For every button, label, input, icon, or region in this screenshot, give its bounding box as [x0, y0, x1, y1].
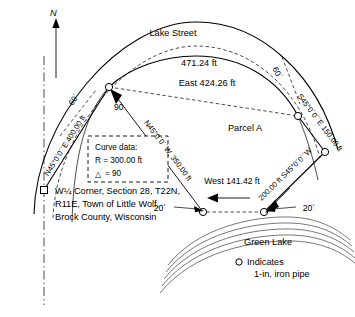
setback-right-label: 20´: [303, 203, 316, 213]
section-corner-monument: [41, 187, 48, 194]
north-arrow: [52, 18, 59, 78]
legend-iron-pipe-icon: [236, 259, 242, 265]
legend-line-2: 1-in. iron pipe: [254, 269, 310, 279]
street-name-label: Lake Street: [150, 28, 197, 38]
chord-label: East 424.26 ft: [179, 78, 236, 88]
corner-note-line-2: R11E, Town of Little Wolf,: [55, 199, 159, 209]
arc-length-label: 471.24 ft: [181, 58, 217, 68]
east-lower-boundary-label: 200.00 ft S45°0´0´´W: [257, 145, 315, 202]
iron-pipe-monument-east: [321, 148, 328, 155]
lake-shoreline-hatching: [160, 217, 355, 293]
legend: Indicates 1-in. iron pipe: [236, 257, 310, 279]
central-angle-label: 90: [114, 102, 124, 112]
iron-pipe-monument-northwest: [105, 83, 112, 90]
curve-data-box: Curve data: R = 300.00 ft △ = 90: [88, 136, 168, 182]
curve-data-delta: = 90: [105, 169, 122, 178]
right-of-way-width-right-label: 60´: [270, 65, 284, 80]
curve-data-radius: R = 300.00 ft: [95, 156, 143, 165]
west-line-label: West 141.42 ft: [204, 176, 260, 186]
legend-line-1: Indicates: [247, 257, 284, 267]
curve-data-heading: Curve data:: [95, 143, 137, 152]
west-direction-arrow: [207, 194, 250, 203]
curve-data-delta-symbol: △: [95, 170, 102, 179]
survey-plat-drawing: N: [0, 0, 355, 317]
corner-note-line-3: Brock County, Wisconsin: [55, 212, 156, 222]
iron-pipe-monument-northeast: [294, 112, 301, 119]
north-label: N: [50, 8, 57, 18]
lake-label: Green Lake: [244, 237, 292, 247]
parcel-label: Parcel A: [228, 123, 263, 133]
right-of-way-width-left-label: 60´: [67, 92, 81, 107]
corner-note-line-1: W¼ Corner, Section 28, T22N,: [55, 186, 180, 196]
chord-line-east: [109, 87, 298, 116]
